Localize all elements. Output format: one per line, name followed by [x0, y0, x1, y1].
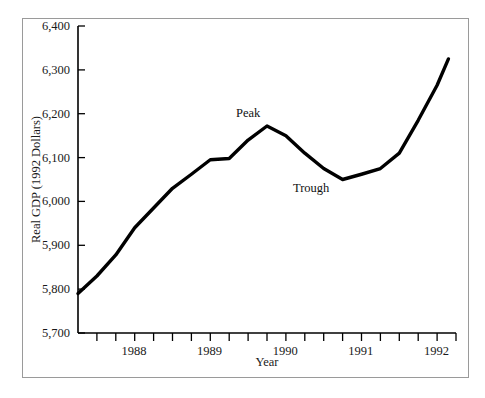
y-tick-label-5800: 5,800 [22, 282, 70, 297]
caption-fragment [24, 381, 464, 396]
axes [78, 26, 456, 333]
y-tick-label-6300: 6,300 [22, 63, 70, 78]
y-tick-label-5700: 5,700 [22, 326, 70, 341]
gdp-line-series [78, 59, 448, 294]
x-axis-title: Year [78, 355, 456, 370]
annotation-peak: Peak [236, 106, 260, 121]
y-axis-title: Real GDP (1992 Dollars) [29, 80, 44, 280]
annotation-trough: Trough [293, 181, 329, 196]
x-axis-ticks [97, 333, 456, 341]
y-tick-label-6400: 6,400 [22, 19, 70, 34]
figure-container: 6,400 6,300 6,200 6,100 6,000 5,900 5,80… [0, 0, 485, 398]
chart-plot [0, 0, 485, 398]
